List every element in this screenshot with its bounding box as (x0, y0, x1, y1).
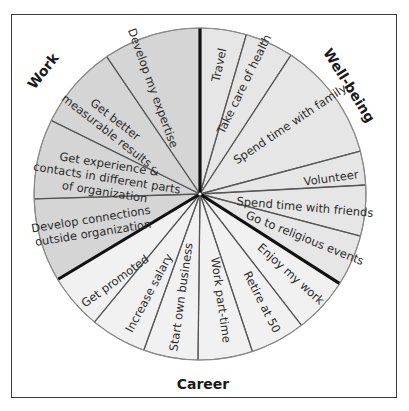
category-label-career: Career (177, 376, 230, 392)
life-goals-wheel: TravelTake care of healthSpend time with… (0, 0, 409, 411)
category-label-work: Work (24, 49, 62, 92)
wheel-center-dot (198, 192, 201, 195)
